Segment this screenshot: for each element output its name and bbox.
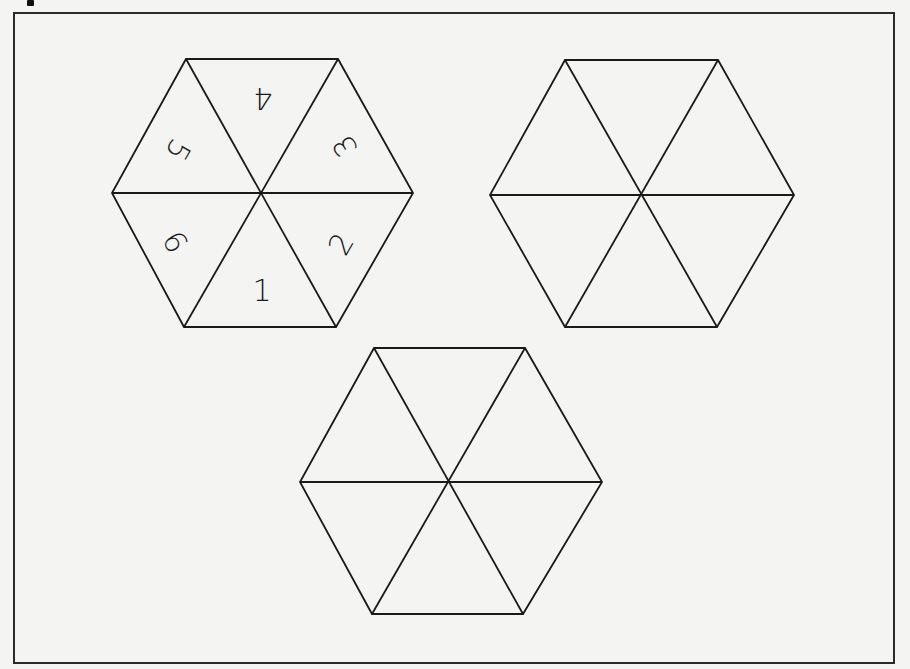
page-frame bbox=[14, 13, 894, 663]
sector-number-label: 3 bbox=[325, 129, 365, 163]
sector-number-label: 5 bbox=[158, 133, 198, 167]
worksheet: 432165 bbox=[0, 0, 910, 669]
hexagon-spinner: 432165 bbox=[112, 59, 413, 327]
sector-number-label: 1 bbox=[252, 273, 271, 308]
spinner-group: 432165 bbox=[112, 59, 794, 614]
hexagon-spinner bbox=[300, 348, 602, 614]
sector-number-label: 2 bbox=[321, 227, 361, 261]
sector-divider bbox=[372, 348, 525, 614]
sector-number-label: 6 bbox=[155, 225, 195, 259]
hexagon-outline bbox=[300, 348, 602, 614]
hexagon-spinner bbox=[490, 60, 794, 327]
sector-number-label: 4 bbox=[253, 81, 272, 116]
